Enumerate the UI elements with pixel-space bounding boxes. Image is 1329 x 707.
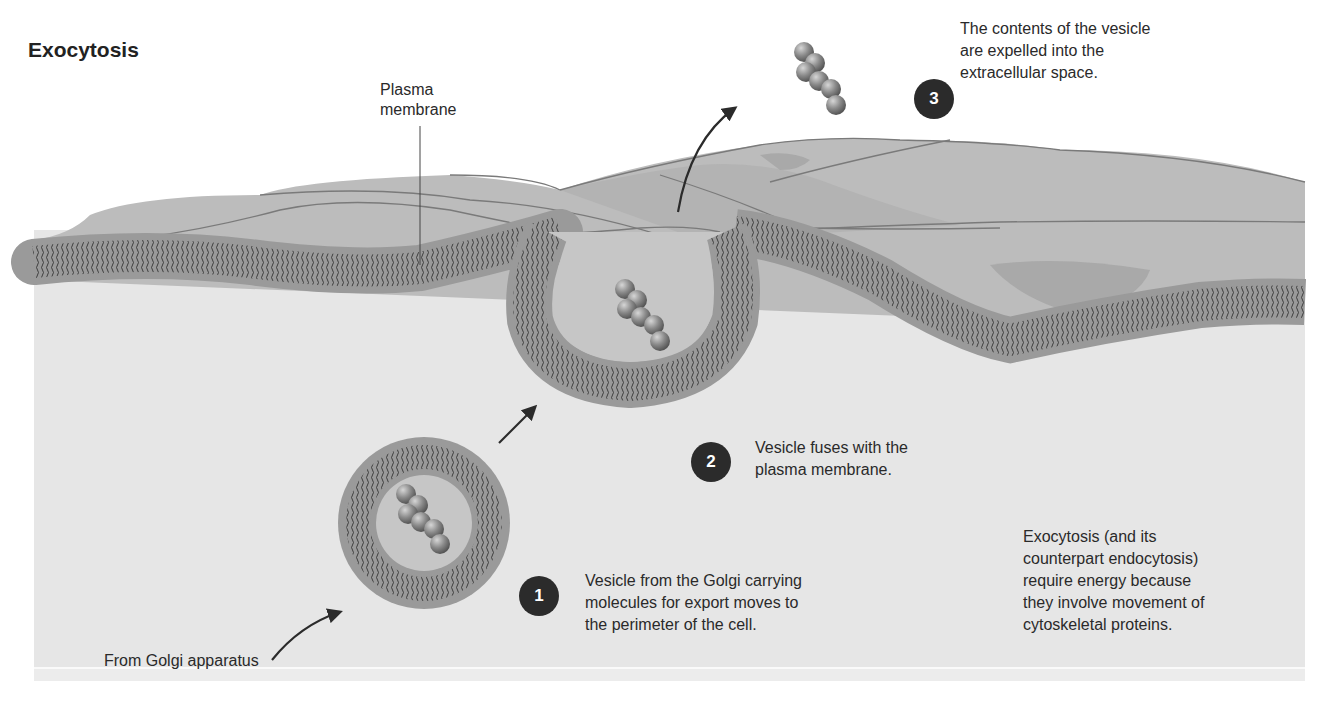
step-3-text: The contents of the vesicle are expelled… — [960, 18, 1150, 84]
step-3-badge: 3 — [914, 79, 954, 119]
plasma-membrane-label: Plasma membrane — [380, 80, 456, 120]
from-golgi-label: From Golgi apparatus — [104, 651, 259, 671]
step-2-badge: 2 — [691, 442, 731, 482]
step-1-text: Vesicle from the Golgi carrying molecule… — [585, 570, 802, 636]
diagram-title: Exocytosis — [28, 38, 139, 62]
molecule-cluster-expelled — [794, 42, 846, 115]
energy-note: Exocytosis (and its counterpart endocyto… — [1023, 526, 1204, 636]
step-2-text: Vesicle fuses with the plasma membrane. — [755, 437, 908, 481]
step-1-badge: 1 — [519, 576, 559, 616]
